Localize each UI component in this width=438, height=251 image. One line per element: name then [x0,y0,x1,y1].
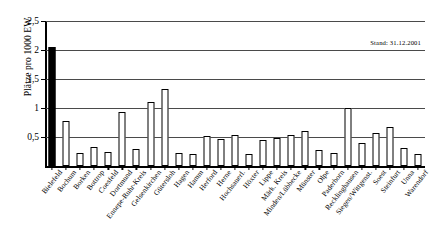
bar-lippe [260,140,267,166]
bar-slot [186,21,200,166]
bar-hagen [175,153,182,166]
bar-slot [312,21,326,166]
bar-chart: Plätze pro 1000 EW 0,511,522,5 Stand: 31… [0,0,438,251]
bar-slot [242,21,256,166]
bar-gelsenkirchen [147,102,154,166]
bar-slot [158,21,172,166]
bar-slot [270,21,284,166]
bar-bottrop [91,147,98,166]
bar-slot [45,21,59,166]
bar-warendorf [414,154,421,166]
bar-slot [200,21,214,166]
bar-slot [228,21,242,166]
bar-slot [87,21,101,166]
bar-slot [73,21,87,166]
bar-recklinghausen [344,108,351,166]
bar-h-xter [246,154,253,166]
bar-steinfurt [386,127,393,166]
bar-siegen-wittgenst [358,143,365,166]
bar-hochsauerl [231,135,238,166]
bar-series [45,21,425,166]
y-tick-label: 1 [34,103,39,113]
stand-annotation: Stand: 31.12.2001 [370,39,421,46]
bar-slot [341,21,355,166]
x-axis-labels: BielefeldBochumBorkenBottropCoesfeldDort… [45,168,425,251]
bar-olpe [316,150,323,166]
bar-slot [214,21,228,166]
y-tick-label: 0,5 [27,132,39,142]
bar-m-rk-kreis [274,138,281,166]
bar-coesfeld [105,152,112,167]
bar-ennepe-ruhr-kreis [133,149,140,166]
bar-slot [172,21,186,166]
y-tick-label: 1,5 [27,74,39,84]
bar-herford [203,136,210,166]
bar-slot [144,21,158,166]
bar-minden-l-bbecke [288,135,295,166]
bar-slot [284,21,298,166]
bar-soest [372,133,379,166]
bar-bielefeld [49,47,56,166]
bar-slot [355,21,369,166]
bar-dortmund [119,112,126,166]
bar-unna [400,148,407,166]
y-tick-label: 2 [34,45,39,55]
bar-m-nster [302,131,309,166]
bar-slot [326,21,340,166]
plot-area: 0,511,522,5 Stand: 31.12.2001 [45,21,425,166]
bar-slot [129,21,143,166]
bar-g-tersloh [161,89,168,166]
bar-slot [101,21,115,166]
bar-hamm [189,154,196,166]
bar-borken [77,153,84,166]
bar-slot [298,21,312,166]
bar-paderborn [330,153,337,166]
bar-slot [115,21,129,166]
y-tick-label: 2,5 [27,16,39,26]
bar-slot [59,21,73,166]
bar-herne [217,139,224,166]
bar-bochum [63,121,70,166]
bar-slot [256,21,270,166]
